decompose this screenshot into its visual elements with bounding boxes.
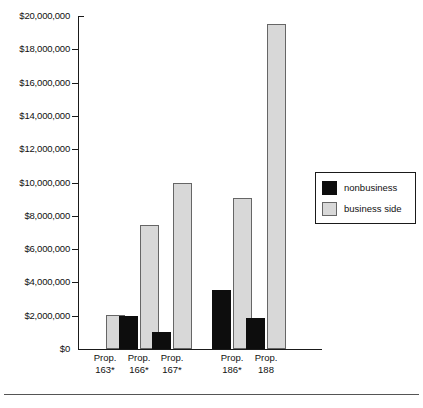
bar-business-side bbox=[267, 24, 286, 349]
bars-layer bbox=[78, 16, 322, 349]
bar-nonbusiness bbox=[246, 318, 265, 349]
y-axis-tick-label: $6,000,000 bbox=[0, 243, 70, 254]
legend-label-nonbusiness: nonbusiness bbox=[344, 182, 397, 193]
y-axis-tick-label: $12,000,000 bbox=[0, 143, 70, 154]
legend-label-business-side: business side bbox=[344, 203, 402, 214]
y-axis-tick-label: $10,000,000 bbox=[0, 177, 70, 188]
y-axis-tick-label: $4,000,000 bbox=[0, 276, 70, 287]
x-axis-category-label: Prop.188 bbox=[242, 352, 290, 375]
y-axis-tick-label: $16,000,000 bbox=[0, 77, 70, 88]
x-axis-category-label: Prop.167* bbox=[148, 352, 196, 375]
x-axis-category-labels: Prop.163*Prop.166*Prop.167*Prop.186*Prop… bbox=[78, 352, 322, 392]
legend-swatch-nonbusiness bbox=[322, 181, 337, 195]
y-axis-tick-label: $8,000,000 bbox=[0, 210, 70, 221]
bar-nonbusiness bbox=[152, 332, 171, 349]
x-axis-line bbox=[78, 349, 322, 350]
chart-legend: nonbusiness business side bbox=[315, 172, 416, 224]
bar-nonbusiness bbox=[119, 316, 138, 349]
legend-entry-nonbusiness: nonbusiness bbox=[322, 179, 397, 196]
y-axis-tick-label: $14,000,000 bbox=[0, 110, 70, 121]
y-axis-tick-label: $18,000,000 bbox=[0, 43, 70, 54]
y-axis-tick-label: $0 bbox=[0, 343, 70, 354]
y-axis-tick-labels: $20,000,000$18,000,000$16,000,000$14,000… bbox=[0, 0, 70, 408]
legend-entry-business-side: business side bbox=[322, 200, 402, 217]
legend-swatch-business-side bbox=[322, 202, 337, 216]
y-axis-tick-label: $2,000,000 bbox=[0, 310, 70, 321]
bar-chart: $20,000,000$18,000,000$16,000,000$14,000… bbox=[0, 0, 423, 408]
bar-nonbusiness bbox=[212, 290, 231, 349]
y-axis-tick-label: $20,000,000 bbox=[0, 10, 70, 21]
bar-business-side bbox=[173, 183, 192, 349]
bottom-divider bbox=[4, 394, 419, 395]
bar-business-side bbox=[140, 225, 159, 349]
